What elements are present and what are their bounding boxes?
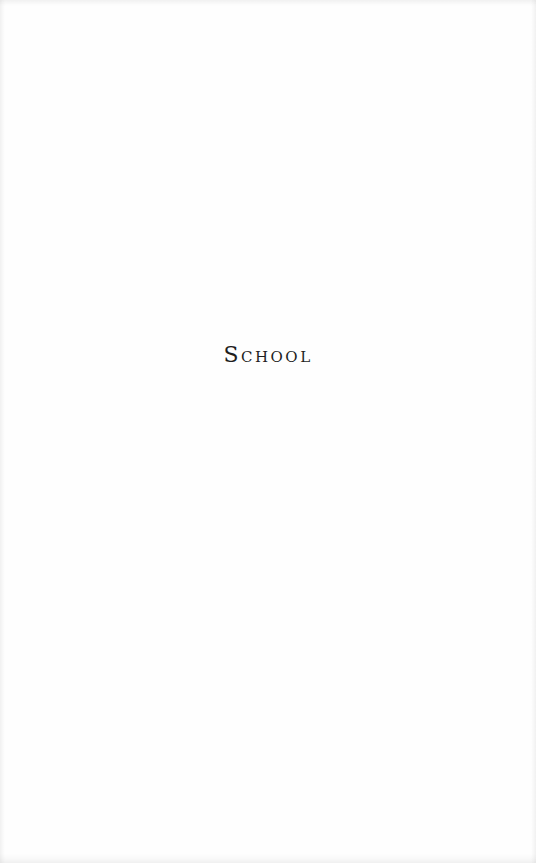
scan-edge-bottom [0,853,536,863]
scan-edge-right [531,0,536,863]
section-heading: School [0,340,536,370]
scan-edge-left [0,0,5,863]
book-page: School [0,0,536,863]
scan-edge-top [0,0,536,6]
